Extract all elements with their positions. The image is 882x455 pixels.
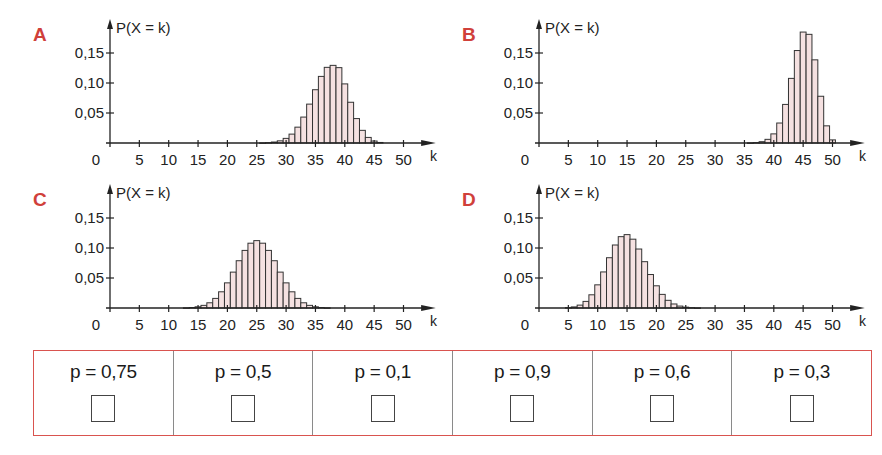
y-tick-label: 0,10 — [75, 74, 104, 91]
answer-checkbox[interactable] — [790, 395, 814, 422]
histogram-c: P(X = k)k0,050,100,150510152025303540455… — [0, 165, 440, 333]
histogram-bar — [283, 283, 289, 308]
histogram-bar — [254, 241, 260, 308]
bars — [183, 241, 330, 309]
histogram-bar — [313, 90, 319, 143]
answer-checkbox[interactable] — [231, 395, 255, 422]
x-tick-label: 50 — [395, 316, 412, 333]
y-tick-label: 0,15 — [504, 209, 533, 226]
y-axis-arrow-icon — [536, 19, 542, 29]
histogram-bar — [642, 262, 648, 308]
y-axis-label: P(X = k) — [116, 184, 171, 201]
histogram-bar — [788, 78, 794, 143]
bars — [565, 235, 700, 309]
answer-checkbox[interactable] — [371, 395, 395, 422]
x-tick-label: 50 — [824, 316, 841, 333]
choice-label: p = 0,5 — [174, 361, 313, 383]
histogram-bar — [213, 298, 219, 308]
choice-cell-p01: p = 0,1 — [313, 351, 453, 435]
x-tick-label: 25 — [248, 316, 265, 333]
histogram-bar — [648, 275, 654, 308]
histogram-bar — [236, 261, 242, 308]
choice-label: p = 0,9 — [453, 361, 592, 383]
x-tick-label: 20 — [648, 316, 665, 333]
x-tick-label: 10 — [160, 316, 177, 333]
histogram-bar — [301, 117, 307, 143]
y-tick-label: 0,05 — [504, 269, 533, 286]
x-tick-label: 35 — [736, 316, 753, 333]
histogram-bar — [824, 126, 830, 143]
histogram-bar — [301, 303, 307, 308]
y-tick-label: 0,10 — [75, 239, 104, 256]
histogram-bar — [348, 102, 354, 143]
x-tick-label: 20 — [219, 316, 236, 333]
y-tick-label: 0,05 — [75, 104, 104, 121]
histogram-bar — [636, 249, 642, 308]
histogram-bar — [783, 104, 789, 143]
histogram-bar — [277, 272, 283, 308]
histogram-bar — [224, 283, 230, 308]
x-tick-label: 10 — [589, 316, 606, 333]
histogram-bar — [777, 123, 783, 143]
histogram-bar — [806, 34, 812, 143]
panel-c: C P(X = k)k0,050,100,1505101520253035404… — [0, 165, 440, 333]
histogram-bar — [295, 298, 301, 308]
histogram-bar — [330, 65, 336, 143]
x-tick-label: 30 — [707, 316, 724, 333]
choice-cell-p075: p = 0,75 — [34, 351, 174, 435]
y-axis-arrow-icon — [107, 184, 113, 194]
histogram-bar — [665, 300, 671, 308]
x-tick-label: 35 — [307, 316, 324, 333]
y-tick-label: 0,15 — [504, 44, 533, 61]
histogram-bar — [583, 301, 589, 308]
y-axis-label: P(X = k) — [545, 19, 600, 36]
y-tick-label: 0,15 — [75, 209, 104, 226]
choice-cell-p05: p = 0,5 — [174, 351, 314, 435]
x-tick-label: 5 — [564, 316, 572, 333]
choice-label: p = 0,3 — [732, 361, 871, 383]
x-tick-label: 15 — [619, 316, 636, 333]
x-tick-label: 40 — [336, 316, 353, 333]
histogram-bar — [295, 127, 301, 143]
x-axis-label: k — [859, 148, 867, 164]
answer-checkbox[interactable] — [650, 395, 674, 422]
histogram-bar — [659, 294, 665, 308]
probability-choice-table: p = 0,75 p = 0,5 p = 0,1 p = 0,9 p = 0,6… — [33, 350, 872, 436]
histogram-bar — [595, 285, 601, 308]
histogram-bar — [601, 272, 607, 308]
histogram-b: P(X = k)k0,050,100,150510152025303540455… — [429, 0, 869, 168]
y-axis-label: P(X = k) — [545, 184, 600, 201]
y-axis-arrow-icon — [536, 184, 542, 194]
x-tick-label: 45 — [795, 316, 812, 333]
x-tick-label: 5 — [135, 316, 143, 333]
choice-label: p = 0,1 — [313, 361, 452, 383]
histogram-bar — [207, 303, 213, 308]
histogram-bar — [230, 272, 236, 308]
histogram-bar — [607, 258, 613, 308]
x-axis-label: k — [859, 313, 867, 329]
histogram-bar — [289, 134, 295, 143]
histogram-bar — [812, 60, 818, 143]
histogram-bar — [800, 32, 806, 143]
bars — [260, 65, 383, 143]
y-axis-label: P(X = k) — [116, 19, 171, 36]
histogram-bar — [219, 292, 225, 308]
histogram-bar — [324, 67, 330, 143]
histogram-d: P(X = k)k0,050,100,150510152025303540455… — [429, 165, 869, 333]
answer-checkbox[interactable] — [91, 395, 115, 422]
y-axis-arrow-icon — [107, 19, 113, 29]
histogram-bar — [359, 130, 365, 143]
histogram-bar — [365, 137, 371, 143]
bars — [747, 32, 835, 143]
x-tick-label: 0 — [92, 316, 100, 333]
x-tick-label: 15 — [190, 316, 207, 333]
histogram-bar — [336, 68, 342, 143]
answer-checkbox[interactable] — [510, 395, 534, 422]
x-tick-label: 40 — [765, 316, 782, 333]
x-tick-label: 45 — [366, 316, 383, 333]
choice-cell-p03: p = 0,3 — [732, 351, 871, 435]
y-tick-label: 0,10 — [504, 74, 533, 91]
histogram-bar — [248, 243, 254, 308]
histogram-bar — [318, 76, 324, 143]
histogram-bar — [794, 51, 800, 143]
